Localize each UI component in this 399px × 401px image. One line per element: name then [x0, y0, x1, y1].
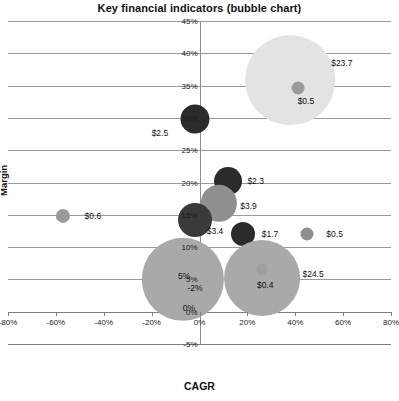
bubble-label: $0.5: [326, 229, 343, 239]
y-tick-label: 10%: [162, 243, 198, 252]
x-axis-title: CAGR: [0, 380, 399, 392]
y-tick-label: 40%: [162, 49, 198, 58]
x-axis-bottom-line: [8, 344, 391, 345]
bubble-label: $24.5: [302, 269, 323, 279]
bubble-point[interactable]: [256, 263, 268, 275]
y-tick-label: 20%: [162, 178, 198, 187]
bubble-point[interactable]: [56, 209, 70, 223]
x-tick-mark: [152, 312, 153, 316]
x-tick-mark: [104, 312, 105, 316]
x-tick-label: -60%: [47, 318, 66, 327]
x-tick-label: -40%: [94, 318, 113, 327]
chart-title: Key financial indicators (bubble chart): [0, 2, 399, 14]
bubble-label: $2.5: [152, 128, 169, 138]
y-tick-label: 35%: [162, 81, 198, 90]
x-tick-label: 60%: [335, 318, 351, 327]
x-tick-mark: [56, 312, 57, 316]
x-tick-label: 40%: [287, 318, 303, 327]
x-tick-mark: [8, 312, 9, 316]
y-tick-label: 45%: [162, 17, 198, 26]
bubble-point[interactable]: [291, 82, 304, 95]
y-tick-label: 30%: [162, 113, 198, 122]
bubble-chart: Key financial indicators (bubble chart) …: [0, 0, 399, 401]
bubble-label: $23.7: [331, 58, 352, 68]
y-axis-title: Margin: [0, 165, 9, 196]
bubble-label: $3.4: [207, 226, 224, 236]
y-tick-label: -5%: [162, 340, 198, 349]
bubble-point[interactable]: [246, 36, 336, 126]
bubble-point[interactable]: [301, 228, 314, 241]
y-tick-label: 5%: [162, 275, 198, 284]
x-tick-label: -80%: [0, 318, 17, 327]
bubble-label: $0.6: [85, 211, 102, 221]
bubble-label: $3.9: [240, 201, 257, 211]
x-tick-mark: [247, 312, 248, 316]
plot-area: $23.7$0.5$2.5$2.3$3.9$0.6$3.4$1.7$0.55%-…: [8, 21, 391, 344]
x-tick-mark: [391, 312, 392, 316]
y-tick-label: 0%: [162, 307, 198, 316]
y-tick-label: 25%: [162, 146, 198, 155]
bubble-label: -2%: [188, 283, 203, 293]
bubble-label: $2.3: [247, 176, 264, 186]
x-tick-label: 0%: [194, 318, 206, 327]
y-tick-label: 15%: [162, 210, 198, 219]
x-tick-mark: [200, 312, 201, 316]
bubble-label: $0.4: [257, 280, 274, 290]
bubble-point[interactable]: [224, 240, 300, 316]
x-tick-mark: [343, 312, 344, 316]
x-tick-mark: [295, 312, 296, 316]
x-tick-label: 20%: [239, 318, 255, 327]
bubble-label: $1.7: [262, 229, 279, 239]
x-tick-label: -20%: [142, 318, 161, 327]
x-tick-label: 80%: [383, 318, 399, 327]
bubble-label: $0.5: [298, 96, 315, 106]
